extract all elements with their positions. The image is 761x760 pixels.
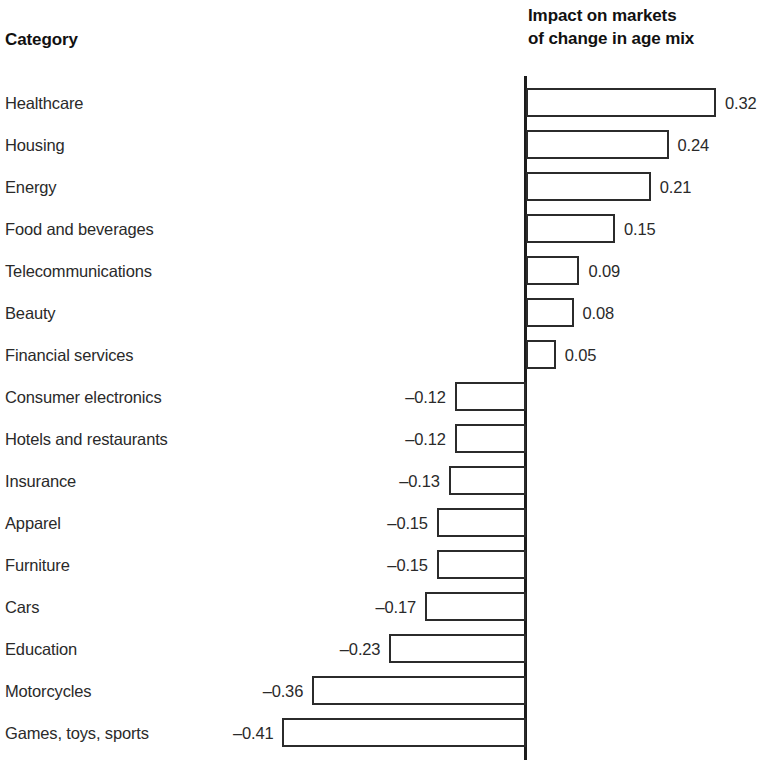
bar-value-label: –0.15 — [387, 502, 428, 544]
chart-row: Energy0.21 — [0, 166, 761, 208]
category-label: Energy — [5, 166, 56, 208]
category-label: Consumer electronics — [5, 376, 162, 418]
category-label: Apparel — [5, 502, 61, 544]
chart-row: Education–0.23 — [0, 628, 761, 670]
category-label: Games, toys, sports — [5, 712, 149, 754]
chart-row: Healthcare0.32 — [0, 82, 761, 124]
chart-root: Category Impact on markets of change in … — [0, 0, 761, 760]
bar-value-label: –0.23 — [340, 628, 381, 670]
chart-row: Furniture–0.15 — [0, 544, 761, 586]
chart-row: Insurance–0.13 — [0, 460, 761, 502]
chart-row: Food and beverages0.15 — [0, 208, 761, 250]
bar-value-label: –0.36 — [263, 670, 304, 712]
bar — [389, 634, 526, 663]
bar — [526, 298, 574, 327]
category-label: Cars — [5, 586, 39, 628]
category-label: Insurance — [5, 460, 76, 502]
bar — [425, 592, 526, 621]
chart-row: Hotels and restaurants–0.12 — [0, 418, 761, 460]
bar — [526, 130, 669, 159]
category-label: Hotels and restaurants — [5, 418, 168, 460]
bar-value-label: 0.32 — [725, 82, 757, 124]
bar — [449, 466, 526, 495]
bar-value-label: –0.41 — [233, 712, 274, 754]
category-label: Food and beverages — [5, 208, 154, 250]
category-label: Beauty — [5, 292, 55, 334]
bar-value-label: 0.08 — [583, 292, 615, 334]
chart-row: Telecommunications0.09 — [0, 250, 761, 292]
category-label: Financial services — [5, 334, 133, 376]
category-label: Motorcycles — [5, 670, 91, 712]
bar-value-label: –0.13 — [399, 460, 440, 502]
bar-value-label: –0.12 — [405, 376, 446, 418]
bar-chart-plot-area: Healthcare0.32Housing0.24Energy0.21Food … — [0, 0, 761, 760]
bar — [437, 550, 526, 579]
chart-row: Beauty0.08 — [0, 292, 761, 334]
bar — [526, 340, 556, 369]
bar-value-label: 0.21 — [660, 166, 692, 208]
chart-row: Apparel–0.15 — [0, 502, 761, 544]
bar — [455, 424, 526, 453]
bar — [526, 172, 651, 201]
chart-row: Motorcycles–0.36 — [0, 670, 761, 712]
chart-row: Cars–0.17 — [0, 586, 761, 628]
chart-row: Consumer electronics–0.12 — [0, 376, 761, 418]
bar — [455, 382, 526, 411]
chart-row: Financial services0.05 — [0, 334, 761, 376]
bar — [526, 88, 716, 117]
bar-value-label: –0.15 — [387, 544, 428, 586]
bar — [282, 718, 526, 747]
bar-value-label: 0.15 — [624, 208, 656, 250]
bar — [437, 508, 526, 537]
category-label: Telecommunications — [5, 250, 152, 292]
bar-value-label: 0.24 — [678, 124, 710, 166]
bar — [312, 676, 526, 705]
chart-row: Games, toys, sports–0.41 — [0, 712, 761, 754]
bar — [526, 214, 615, 243]
bar-value-label: 0.09 — [588, 250, 620, 292]
bar-value-label: –0.12 — [405, 418, 446, 460]
chart-row: Housing0.24 — [0, 124, 761, 166]
category-label: Housing — [5, 124, 65, 166]
bar — [526, 256, 579, 285]
bar-value-label: –0.17 — [375, 586, 416, 628]
category-label: Healthcare — [5, 82, 83, 124]
bar-value-label: 0.05 — [565, 334, 597, 376]
category-label: Furniture — [5, 544, 70, 586]
category-label: Education — [5, 628, 77, 670]
